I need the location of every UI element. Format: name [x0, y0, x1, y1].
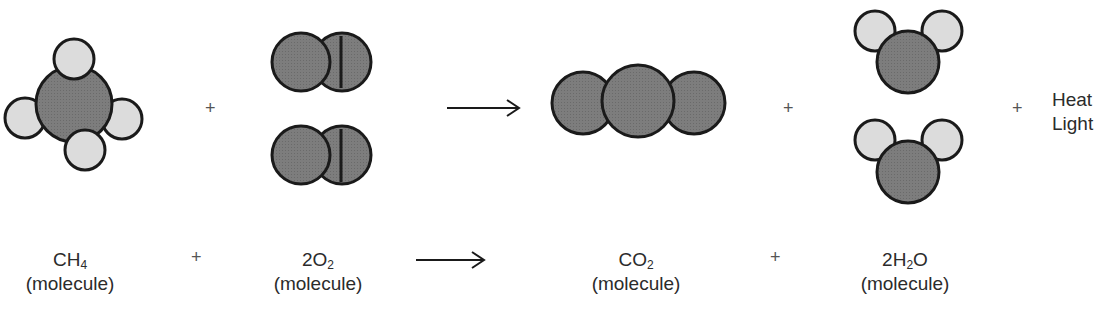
- plus-sign-bottom-1: +: [191, 247, 202, 268]
- carbon-dioxide-model-icon: [552, 65, 725, 137]
- reaction-arrow-bottom-icon: [416, 252, 484, 268]
- water-molecule-1-icon: [855, 11, 962, 93]
- light-label: Light: [1052, 112, 1093, 136]
- reaction-diagram: + + + Heat Light CH4 (molecule) + 2O2 (m…: [0, 0, 1109, 332]
- methane-model-icon: [5, 39, 142, 170]
- formula-ch4: CH4: [20, 248, 120, 272]
- label-h2o: 2H2O (molecule): [855, 248, 955, 296]
- reaction-arrow-top-icon: [447, 100, 519, 116]
- label-o2: 2O2 (molecule): [268, 248, 368, 296]
- heat-label: Heat: [1052, 88, 1093, 112]
- plus-sign-top-2: +: [783, 98, 794, 119]
- desc-h2o: (molecule): [855, 272, 955, 296]
- oxygen-molecule-1-icon: [272, 33, 371, 91]
- oxygen-molecule-2-icon: [272, 126, 371, 184]
- desc-co2: (molecule): [586, 272, 686, 296]
- plus-sign-top-1: +: [205, 98, 216, 119]
- plus-sign-top-3: +: [1012, 98, 1023, 119]
- formula-o2: 2O2: [268, 248, 368, 272]
- label-ch4: CH4 (molecule): [20, 248, 120, 296]
- water-molecule-2-icon: [855, 120, 962, 203]
- desc-ch4: (molecule): [20, 272, 120, 296]
- formula-h2o: 2H2O: [855, 248, 955, 272]
- label-co2: CO2 (molecule): [586, 248, 686, 296]
- energy-label: Heat Light: [1052, 88, 1093, 136]
- plus-sign-bottom-2: +: [770, 247, 781, 268]
- desc-o2: (molecule): [268, 272, 368, 296]
- formula-co2: CO2: [586, 248, 686, 272]
